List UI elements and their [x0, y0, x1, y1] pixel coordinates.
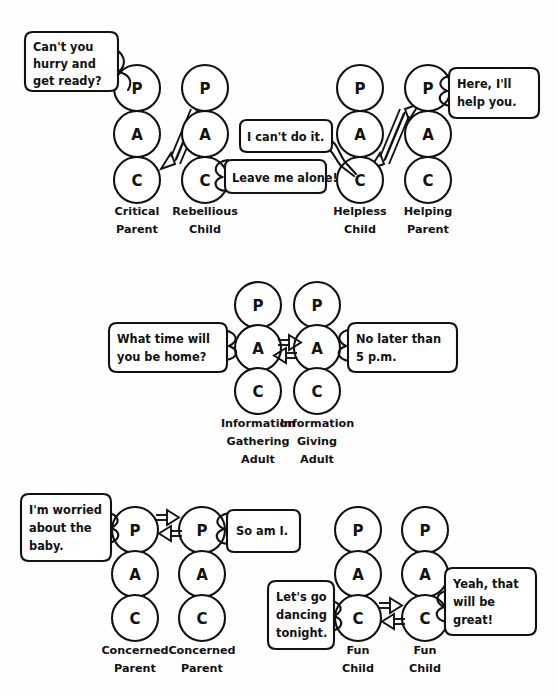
column-label-line2: Parent: [407, 223, 450, 236]
ego-letter-adult: A: [354, 126, 366, 144]
bubble-so-am-i: So am I.: [217, 510, 300, 552]
column-label-line2: Giving: [297, 435, 337, 448]
ego-letter-adult: A: [311, 340, 323, 358]
bubble-line-2: 5 p.m.: [356, 350, 397, 364]
column-label-line2: Child: [189, 223, 221, 236]
bubble-line-1: Let's go: [276, 590, 327, 604]
column-label-line2: Child: [342, 662, 374, 675]
ego-letter-adult: A: [129, 566, 141, 584]
column-label-line2: Gathering: [227, 435, 290, 448]
bubble-what-time-will-you-be-home: What time will you be home?: [109, 323, 236, 372]
column-label-line2: Parent: [181, 662, 224, 675]
bubble-line-1: I'm worried: [29, 503, 102, 517]
ego-letter-child: C: [419, 610, 430, 628]
ego-letter-child: C: [252, 383, 263, 401]
column-label-line3: Adult: [241, 453, 275, 466]
ego-letter-parent: P: [353, 522, 364, 540]
bubble-line-1: What time will: [117, 332, 210, 346]
arrow-left-p-to-right-p: [156, 510, 179, 525]
bubble-line-2: about the: [29, 521, 92, 535]
column-label-line1: Critical: [115, 205, 160, 218]
column-helpless-child: P A C Helpless Child: [333, 65, 387, 236]
bubble-leave-me-alone: Leave me alone!: [216, 160, 338, 193]
column-fun-child-left: P A C Fun Child: [335, 507, 381, 675]
bubble-line-2: dancing: [276, 608, 327, 622]
ego-letter-parent: P: [200, 80, 211, 98]
column-label-line2: Child: [344, 223, 376, 236]
ego-letter-adult: A: [196, 566, 208, 584]
bubble-line-1: Can't you: [33, 40, 93, 54]
column-label-line2: Child: [409, 662, 441, 675]
column-rebellious-child: P A C Rebellious Child: [172, 65, 238, 236]
bubble-line-2: you be home?: [117, 350, 206, 364]
column-label-line2: Parent: [116, 223, 159, 236]
bubble-line-1: No later than: [356, 332, 441, 346]
ego-letter-adult: A: [252, 340, 264, 358]
column-critical-parent: P A C Critical Parent: [114, 65, 160, 236]
ego-letter-parent: P: [312, 297, 323, 315]
column-information-gathering-adult: P A C Information Gathering Adult: [221, 282, 295, 466]
bubble-yeah-that-will-be-great: Yeah, that will be great!: [437, 568, 536, 635]
bubble-line-2: hurry and: [33, 57, 96, 71]
bubble-line-1: Yeah, that: [452, 577, 519, 591]
ego-letter-parent: P: [130, 522, 141, 540]
ego-letter-adult: A: [419, 566, 431, 584]
column-label-line1: Concerned: [168, 644, 235, 657]
bubble-line-1: Leave me alone!: [232, 171, 338, 185]
column-label-line1: Concerned: [101, 644, 168, 657]
ego-letter-adult: A: [199, 126, 211, 144]
bubble-here-ill-help-you: Here, I'll help you.: [440, 68, 539, 118]
ego-letter-child: C: [311, 383, 322, 401]
ego-letter-parent: P: [423, 80, 434, 98]
ego-letter-adult: A: [422, 126, 434, 144]
column-label-line3: Adult: [300, 453, 334, 466]
group-information-gathering-giving: P A C Information Gathering Adult P A C …: [109, 282, 457, 466]
bubble-line-1: I can't do it.: [247, 130, 324, 144]
ego-letter-parent: P: [355, 80, 366, 98]
bubble-cant-you-hurry: Can't you hurry and get ready?: [25, 32, 130, 91]
group-fun-child-pair: P A C Fun Child P A C Fun Child: [268, 507, 536, 675]
ego-letter-parent: P: [197, 522, 208, 540]
column-concerned-parent-right: P A C Concerned Parent: [168, 507, 235, 675]
bubble-line-2: help you.: [457, 95, 517, 109]
ego-letter-child: C: [199, 172, 210, 190]
ego-letter-child: C: [352, 610, 363, 628]
ego-letter-child: C: [196, 610, 207, 628]
column-label-line1: Rebellious: [172, 205, 238, 218]
column-information-giving-adult: P A C Information Giving Adult: [280, 282, 354, 466]
ego-letter-child: C: [422, 172, 433, 190]
ego-letter-child: C: [131, 172, 142, 190]
bubble-line-3: baby.: [29, 539, 64, 553]
bubble-line-1: Here, I'll: [457, 77, 511, 91]
column-label-line1: Helping: [404, 205, 453, 218]
diagram-canvas: P A C Critical Parent P A C Rebellious C…: [0, 0, 558, 696]
bubble-line-3: tonight.: [276, 626, 327, 640]
column-label-line1: Information: [280, 417, 354, 430]
ego-letter-parent: P: [420, 522, 431, 540]
ego-letter-adult: A: [131, 126, 143, 144]
arrow-left-c-to-right-c: [379, 598, 402, 613]
column-fun-child-right: P A C Fun Child: [402, 507, 448, 675]
bubble-line-2: will be: [453, 595, 495, 609]
ego-letter-parent: P: [253, 297, 264, 315]
column-label-line1: Fun: [413, 644, 436, 657]
bubble-line-3: get ready?: [33, 74, 102, 88]
ego-letter-parent: P: [132, 80, 143, 98]
group-helpless-child-helping-parent: P A C Helpless Child P A C Helping Paren…: [240, 65, 539, 236]
column-label-line2: Parent: [114, 662, 157, 675]
ego-letter-child: C: [129, 610, 140, 628]
ego-letter-adult: A: [352, 566, 364, 584]
bubble-no-later-than-5pm: No later than 5 p.m.: [339, 323, 457, 372]
bubble-im-worried-about-the-baby: I'm worried about the baby.: [21, 494, 118, 561]
group-concerned-parent-pair: P A C Concerned Parent P A C Concerned P…: [21, 494, 300, 675]
bubble-lets-go-dancing-tonight: Let's go dancing tonight.: [268, 581, 341, 649]
bubble-line-1: So am I.: [236, 524, 288, 538]
column-label-line1: Helpless: [333, 205, 387, 218]
bubble-line-3: great!: [453, 613, 493, 627]
transactional-analysis-svg: P A C Critical Parent P A C Rebellious C…: [0, 0, 558, 696]
column-label-line1: Fun: [346, 644, 369, 657]
